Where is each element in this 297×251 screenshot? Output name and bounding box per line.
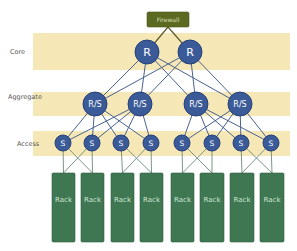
- core-router-label: R: [186, 46, 194, 59]
- server-rack-label: Rack: [204, 196, 222, 204]
- server-rack-label: Rack: [234, 196, 252, 204]
- access-switch-label: S: [90, 139, 95, 148]
- server-rack: [200, 173, 224, 242]
- access-switch-label: S: [269, 139, 274, 148]
- server-rack-label: Rack: [114, 196, 132, 204]
- server-rack: [52, 173, 75, 242]
- access-switch-label: S: [149, 139, 154, 148]
- server-rack-label: Rack: [55, 196, 73, 204]
- server-rack-label: Rack: [264, 196, 282, 204]
- racks: RackRackRackRackRackRackRackRack: [52, 173, 284, 242]
- access-switch-label: S: [180, 139, 185, 148]
- network-topology-diagram: CoreAggregateAccess Firewall RRR/SR/SR/S…: [0, 0, 297, 251]
- server-rack: [171, 173, 194, 242]
- layer-label-core: Core: [10, 48, 25, 56]
- server-rack-label: Rack: [143, 196, 161, 204]
- access-switch-label: S: [210, 139, 215, 148]
- access-switch-label: S: [61, 139, 66, 148]
- layer-bands: [33, 33, 290, 156]
- layer-label-access: Access: [17, 140, 40, 148]
- aggregate-router-switch-label: R/S: [88, 100, 101, 109]
- access-switch-label: S: [239, 139, 244, 148]
- server-rack: [260, 173, 284, 242]
- aggregate-router-switch-label: R/S: [233, 100, 246, 109]
- firewall-label: Firewall: [157, 16, 180, 23]
- aggregate-router-switch-label: R/S: [133, 100, 146, 109]
- aggregate-router-switch-label: R/S: [189, 100, 202, 109]
- server-rack-label: Rack: [84, 196, 102, 204]
- firewall: Firewall: [147, 12, 189, 27]
- server-rack-label: Rack: [174, 196, 192, 204]
- band-core: [33, 33, 290, 70]
- server-rack: [230, 173, 254, 242]
- core-router-label: R: [143, 46, 151, 59]
- server-rack: [81, 173, 104, 242]
- layer-label-aggregate: Aggregate: [8, 93, 42, 101]
- server-rack: [140, 173, 163, 242]
- server-rack: [111, 173, 134, 242]
- access-switch-label: S: [119, 139, 124, 148]
